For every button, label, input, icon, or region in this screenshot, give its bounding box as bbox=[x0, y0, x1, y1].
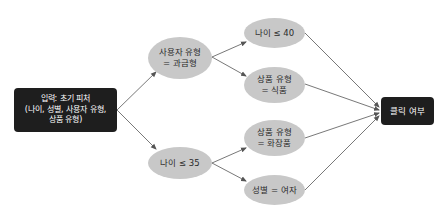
gender-female-node: 성별 = 여자 bbox=[244, 175, 305, 205]
edge-age35-to-product-cosmetic bbox=[212, 148, 246, 163]
edge-age40-to-output bbox=[305, 33, 379, 107]
product-cosmetic-line-2: = 화장품 bbox=[258, 138, 292, 149]
product-food-line-2: = 식품 bbox=[262, 85, 288, 96]
edge-age35-to-gender-female bbox=[212, 163, 246, 181]
product-cosmetic-line-1: 상품 유형 bbox=[257, 127, 292, 138]
product-type-cosmetic-node: 상품 유형 = 화장품 bbox=[244, 120, 305, 156]
edge-product-food-to-output bbox=[305, 84, 379, 110]
user-type-line-1: 사용자 유형 bbox=[159, 47, 202, 58]
edge-input-to-user-type bbox=[117, 72, 156, 110]
edge-input-to-age35 bbox=[117, 110, 156, 149]
output-node-line-1: 클릭 여부 bbox=[390, 106, 425, 117]
decision-flow-diagram: 입력: 초기 피처 (나이, 성별, 사용자 유형, 상품 유형) 사용자 유형… bbox=[0, 0, 448, 213]
user-type-line-2: = 과금형 bbox=[163, 58, 197, 69]
age40-line-1: 나이 ≤ 40 bbox=[255, 28, 294, 39]
edge-gender-female-to-output bbox=[305, 116, 379, 190]
age35-line-1: 나이 ≤ 35 bbox=[160, 158, 199, 169]
input-features-node: 입력: 초기 피처 (나이, 성별, 사용자 유형, 상품 유형) bbox=[14, 88, 117, 132]
age-le-40-node: 나이 ≤ 40 bbox=[244, 18, 305, 48]
product-type-food-node: 상품 유형 = 식품 bbox=[244, 67, 305, 103]
user-type-premium-node: 사용자 유형 = 과금형 bbox=[148, 37, 212, 79]
edge-user-type-to-product-food bbox=[212, 57, 246, 76]
gender-female-line-1: 성별 = 여자 bbox=[252, 185, 297, 196]
input-node-line-1: 입력: 초기 피처 bbox=[41, 94, 91, 105]
age-le-35-node: 나이 ≤ 35 bbox=[148, 147, 212, 179]
click-outcome-node: 클릭 여부 bbox=[381, 97, 434, 125]
edge-user-type-to-age40 bbox=[212, 42, 246, 57]
input-node-line-3: 상품 유형) bbox=[49, 115, 83, 126]
edge-product-cosmetic-to-output bbox=[305, 113, 379, 138]
product-food-line-1: 상품 유형 bbox=[257, 74, 292, 85]
input-node-line-2: (나이, 성별, 사용자 유형, bbox=[25, 105, 106, 116]
